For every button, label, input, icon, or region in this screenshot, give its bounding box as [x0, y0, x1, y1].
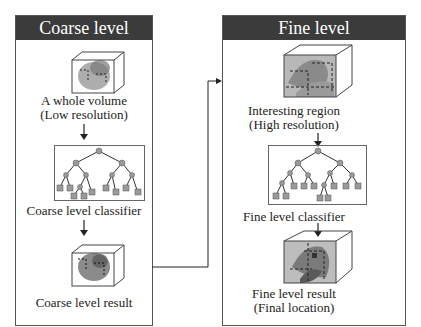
fine-level-title: Fine level [223, 16, 405, 40]
volume-cube-icon [282, 229, 357, 289]
decision-tree-icon [54, 145, 145, 201]
fine-step1-label: Interesting region (High resolution) [222, 104, 366, 132]
label-line: (High resolution) [222, 118, 366, 132]
coarse-step3-label: Coarse level result [15, 296, 153, 310]
volume-cube-icon [70, 50, 130, 90]
arrow-down-icon [80, 220, 90, 236]
label-line: Interesting region [222, 104, 366, 118]
fine-step2-label: Fine level classifier [222, 210, 366, 224]
label-line: A whole volume [15, 94, 153, 108]
coarse-step2-label: Coarse level classifier [15, 204, 153, 218]
arrow-down-icon [80, 124, 90, 140]
label-line: (Final location) [222, 301, 366, 315]
connector-arrow-icon [152, 78, 224, 270]
decision-tree-icon [268, 145, 367, 205]
coarse-level-title: Coarse level [16, 16, 152, 40]
volume-cube-icon [70, 243, 130, 283]
coarse-step1-label: A whole volume (Low resolution) [15, 94, 153, 122]
label-line: Fine level result [222, 287, 366, 301]
volume-cube-icon [282, 43, 357, 101]
fine-step3-label: Fine level result (Final location) [222, 287, 366, 315]
label-line: (Low resolution) [15, 108, 153, 122]
